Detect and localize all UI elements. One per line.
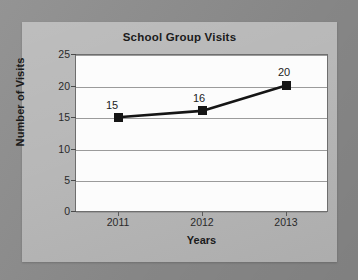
y-axis-ticks: 25 20 15 10 5 0 — [44, 54, 70, 212]
gridline-5 — [76, 181, 327, 182]
y-tick-label: 10 — [44, 144, 70, 154]
x-axis-label: Years — [75, 234, 328, 246]
gridline-10 — [76, 150, 327, 151]
x-tick-label: 2012 — [177, 216, 227, 228]
chart-title: School Group Visits — [22, 31, 337, 43]
chart-screenshot: School Group Visits 25 20 15 10 5 0 Numb… — [0, 0, 358, 280]
x-tick-label: 2013 — [261, 216, 311, 228]
y-tick-mark — [71, 149, 76, 150]
x-tick-label: 2011 — [93, 216, 143, 228]
data-label: 15 — [92, 99, 132, 111]
data-label: 16 — [179, 92, 219, 104]
y-axis-label: Number of Visits — [14, 46, 26, 158]
data-point-marker — [282, 81, 291, 90]
y-tick-label: 15 — [44, 112, 70, 122]
y-tick-mark — [71, 54, 76, 55]
y-tick-mark — [71, 117, 76, 118]
data-point-marker — [114, 113, 123, 122]
y-tick-mark — [71, 211, 76, 212]
y-tick-label: 20 — [44, 81, 70, 91]
data-point-marker — [198, 106, 207, 115]
data-label: 20 — [264, 66, 304, 78]
y-tick-mark — [71, 86, 76, 87]
y-tick-mark — [71, 180, 76, 181]
y-tick-label: 5 — [44, 175, 70, 185]
y-tick-label: 25 — [44, 49, 70, 59]
y-tick-label: 0 — [44, 206, 70, 216]
gridline-25 — [76, 55, 327, 56]
